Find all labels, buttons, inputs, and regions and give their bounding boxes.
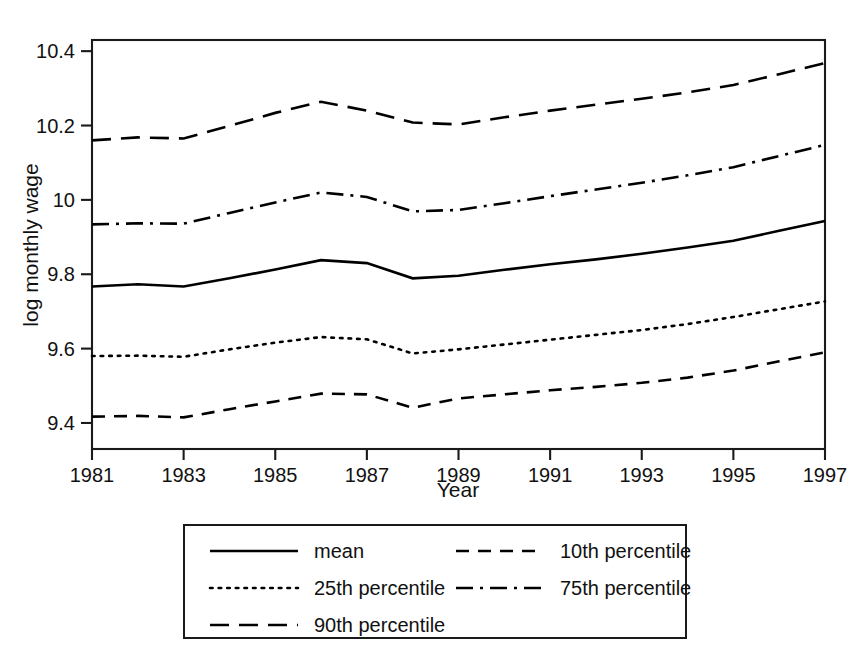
x-tick-label: 1997 [803, 464, 848, 486]
data-series-group [92, 63, 825, 417]
x-tick-label: 1993 [620, 464, 665, 486]
series-line-mean [92, 221, 825, 286]
y-axis-ticks [81, 51, 92, 423]
x-axis-title: Year [437, 478, 479, 501]
y-tick-label: 9.6 [47, 338, 75, 360]
series-line-90th-percentile [92, 63, 825, 140]
legend-label-25th-percentile: 25th percentile [314, 577, 445, 599]
x-tick-label: 1995 [711, 464, 756, 486]
x-tick-label: 1991 [528, 464, 573, 486]
series-line-75th-percentile [92, 145, 825, 225]
wage-percentile-line-chart: 9.49.69.81010.210.4 19811983198519871989… [0, 0, 865, 654]
legend-entries: mean10th percentile25th percentile75th p… [210, 540, 691, 636]
series-line-10th-percentile [92, 352, 825, 417]
x-tick-label: 1983 [161, 464, 206, 486]
legend-label-mean: mean [314, 540, 364, 562]
y-tick-label: 9.8 [47, 263, 75, 285]
legend-label-75th-percentile: 75th percentile [560, 577, 691, 599]
x-tick-label: 1981 [70, 464, 115, 486]
legend-label-90th-percentile: 90th percentile [314, 614, 445, 636]
chart-figure: 9.49.69.81010.210.4 19811983198519871989… [0, 0, 865, 654]
legend-label-10th-percentile: 10th percentile [560, 540, 691, 562]
y-axis-title: log monthly wage [19, 163, 42, 326]
y-tick-label: 10.4 [36, 40, 75, 62]
y-tick-label: 10.2 [36, 115, 75, 137]
x-tick-label: 1987 [345, 464, 390, 486]
series-line-25th-percentile [92, 301, 825, 356]
x-axis-ticks [92, 449, 825, 460]
x-tick-label: 1985 [253, 464, 298, 486]
y-tick-label: 9.4 [47, 412, 75, 434]
y-tick-label: 10 [53, 189, 75, 211]
